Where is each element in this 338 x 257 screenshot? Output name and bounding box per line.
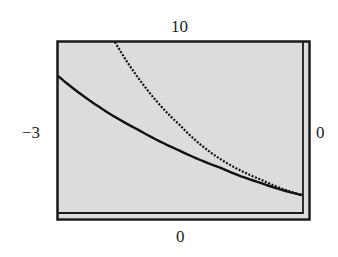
plot-area: [0, 0, 338, 257]
plot-background: [58, 42, 308, 218]
